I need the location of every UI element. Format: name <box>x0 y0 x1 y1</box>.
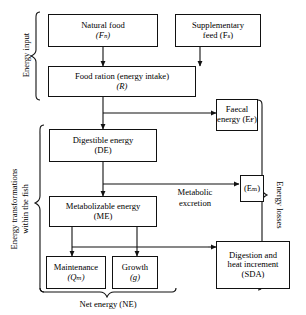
box-natural-food[interactable]: Natural food (Fₙ) <box>48 14 158 47</box>
box-food-ration[interactable]: Food ration (energy intake) (R) <box>48 66 196 97</box>
label-net-energy: Net energy (NE) <box>58 300 158 310</box>
box-sda-line3: (SDA) <box>242 270 265 280</box>
box-metabolic-excretion[interactable]: (Eₘ) <box>240 175 264 202</box>
box-supplementary-feed[interactable]: Supplementary feed (Fₛ) <box>175 14 261 47</box>
box-maintenance[interactable]: Maintenance (Qₘ) <box>46 256 106 289</box>
label-energy-transformations-line2: within the fish <box>21 123 31 295</box>
box-food-ration-line2: (R) <box>117 82 128 92</box>
diagram-root: Natural food (Fₙ) Supplementary feed (Fₛ… <box>0 0 306 315</box>
brace-energy-transformations <box>35 125 44 292</box>
box-faecal-energy[interactable]: Faecal energy (Eғ) <box>216 99 258 131</box>
label-energy-losses: Energy losses <box>274 160 284 250</box>
box-maintenance-line2: (Qₘ) <box>67 273 84 283</box>
label-metabolic-excretion-line2: excretion <box>160 199 230 209</box>
box-digestible-energy-line2: (DE) <box>94 146 111 156</box>
brace-energy-input <box>31 12 40 100</box>
label-energy-input: Energy input <box>22 10 32 100</box>
box-natural-food-line2: (Fₙ) <box>96 31 110 41</box>
box-metabolizable-energy[interactable]: Metabolizable energy (ME) <box>49 196 157 227</box>
box-faecal-energy-line2: energy (Eғ) <box>217 115 257 125</box>
box-supplementary-feed-line2: feed (Fₛ) <box>203 31 233 41</box>
brace-net-energy <box>40 288 176 297</box>
box-digestible-energy[interactable]: Digestible energy (DE) <box>49 129 157 162</box>
box-growth-line2: (g) <box>130 273 140 283</box>
label-energy-transformations-line1: Energy transformations <box>10 123 20 295</box>
box-growth[interactable]: Growth (g) <box>112 256 158 289</box>
box-metabolic-excretion-line1: (Eₘ) <box>244 184 260 194</box>
box-metabolizable-energy-line2: (ME) <box>94 212 113 222</box>
label-metabolic-excretion-line1: Metabolic <box>160 188 230 198</box>
